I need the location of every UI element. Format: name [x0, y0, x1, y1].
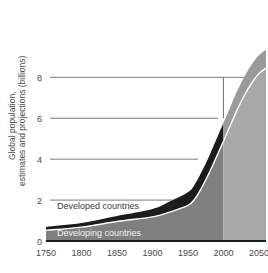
series-label-developed-countries: Developed countries — [57, 201, 140, 211]
x-tick-label-2050: 2050 — [249, 248, 268, 258]
x-tick-label-1800: 1800 — [71, 248, 91, 258]
y-tick-label-6: 6 — [37, 114, 42, 124]
y-tick-label-4: 4 — [37, 155, 42, 165]
y-tick-label-2: 2 — [37, 196, 42, 206]
population-area-chart: 02468 1750180018501900195020002050 Globa… — [0, 0, 268, 273]
y-axis-title: Global population, estimates and project… — [7, 55, 27, 186]
y-axis-tick-labels: 02468 — [37, 73, 42, 247]
x-tick-label-1950: 1950 — [178, 248, 198, 258]
x-tick-label-2000: 2000 — [213, 248, 233, 258]
x-axis-tick-labels: 1750180018501900195020002050 — [36, 248, 268, 258]
series-label-developing-countries: Developing countries — [57, 228, 142, 238]
y-tick-label-0: 0 — [37, 237, 42, 247]
x-tick-label-1750: 1750 — [36, 248, 56, 258]
y-axis-title-line-1: Global population, — [7, 91, 17, 160]
x-tick-label-1900: 1900 — [142, 248, 162, 258]
y-tick-label-8: 8 — [37, 73, 42, 83]
y-axis-title-line-2: estimates and projections (billions) — [17, 55, 27, 186]
chart-canvas: 02468 1750180018501900195020002050 Globa… — [0, 0, 268, 273]
x-tick-label-1850: 1850 — [107, 248, 127, 258]
